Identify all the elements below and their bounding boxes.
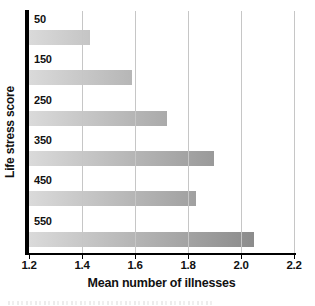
x-tick-label: 1.2 (14, 259, 44, 271)
gridline (82, 11, 83, 253)
bar-category-label: 50 (34, 14, 46, 25)
x-tick-label: 2.2 (279, 259, 309, 271)
gridline (241, 11, 242, 253)
x-tick-label: 1.6 (120, 259, 150, 271)
bar-row: 350 (29, 132, 294, 172)
bar-category-label: 450 (34, 175, 52, 186)
tick-mark (188, 255, 189, 259)
x-tick-label: 2.0 (226, 259, 256, 271)
bar (29, 151, 214, 166)
bar-row: 250 (29, 92, 294, 132)
y-axis-title-wrap: Life stress score (2, 11, 18, 253)
plot-area: 50150250350450550 (29, 11, 294, 253)
bar-row: 550 (29, 213, 294, 253)
bar (29, 111, 167, 126)
tick-mark (135, 255, 136, 259)
bar (29, 232, 254, 247)
x-axis-title: Mean number of illnesses (29, 276, 294, 290)
tick-mark (294, 255, 295, 259)
tick-mark (29, 255, 30, 259)
bar (29, 191, 196, 206)
y-axis-title: Life stress score (3, 86, 17, 178)
gridline (135, 11, 136, 253)
bar-category-label: 150 (34, 54, 52, 65)
x-axis-line (25, 253, 296, 255)
bar-category-label: 550 (34, 216, 52, 227)
bar-row: 450 (29, 172, 294, 212)
gridline (294, 11, 295, 253)
tick-mark (82, 255, 83, 259)
y-axis-line (25, 10, 29, 254)
bar-chart-figure: Life stress score 50150250350450550 1.21… (0, 0, 315, 306)
bar (29, 70, 132, 85)
x-tick-label: 1.4 (67, 259, 97, 271)
cropped-caption-artifact (8, 301, 213, 305)
bar-row: 50 (29, 11, 294, 51)
bar-row: 150 (29, 51, 294, 91)
x-tick-label: 1.8 (173, 259, 203, 271)
bar (29, 30, 90, 45)
bar-category-label: 350 (34, 135, 52, 146)
tick-mark (241, 255, 242, 259)
gridline (188, 11, 189, 253)
bar-category-label: 250 (34, 95, 52, 106)
